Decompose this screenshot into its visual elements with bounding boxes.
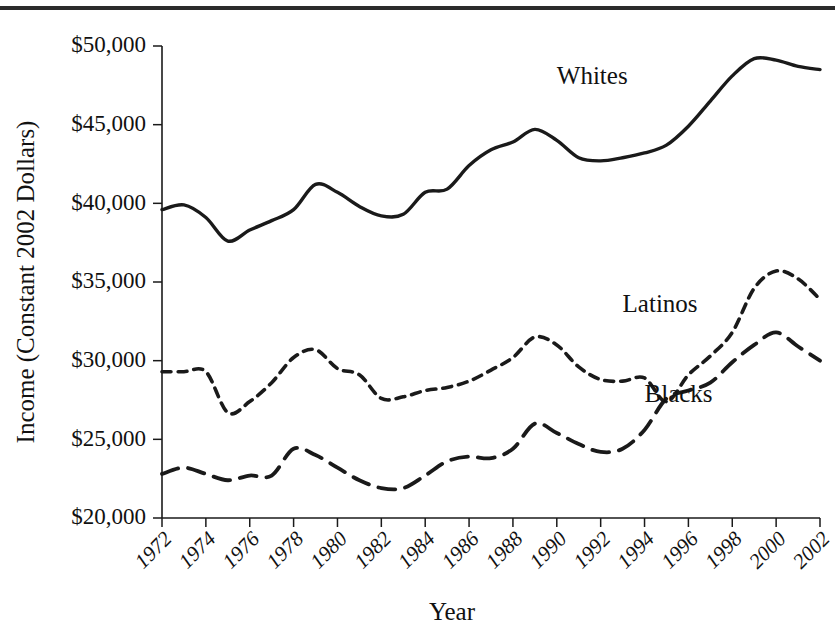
x-axis-title: Year [429,598,476,625]
x-axis: 1972197419761978198019821984198619881990… [130,518,835,573]
y-tick-label: $45,000 [71,111,146,136]
x-tick-label: 1996 [656,526,703,573]
x-tick-label: 1984 [393,526,440,573]
x-tick-label: 1976 [218,526,265,573]
y-tick-label: $50,000 [71,32,146,57]
x-tick-label: 1974 [174,526,221,573]
series-line-whites [162,58,820,242]
y-tick-label: $30,000 [71,347,146,372]
y-tick-label: $35,000 [71,268,146,293]
series-label-blacks: Blacks [645,380,713,407]
series-inline-labels: WhitesLatinosBlacks [557,62,713,407]
y-axis-title: Income (Constant 2002 Dollars) [12,121,40,444]
series-label-latinos: Latinos [623,290,698,317]
x-tick-label: 1992 [569,526,616,573]
x-tick-label: 1986 [437,526,484,573]
x-tick-label: 1982 [349,526,396,573]
x-tick-label: 1990 [525,526,572,573]
x-tick-label: 1980 [305,526,352,573]
x-tick-label: 1988 [481,526,528,573]
x-tick-label: 1978 [261,526,308,573]
series-lines [162,58,820,490]
y-tick-label: $40,000 [71,190,146,215]
y-tick-label: $20,000 [71,504,146,529]
x-tick-label: 1998 [700,526,747,573]
series-line-blacks [162,332,820,489]
y-tick-label: $25,000 [71,426,146,451]
series-line-latinos [162,271,820,414]
x-tick-label: 1972 [130,526,177,573]
x-tick-label: 2002 [788,526,835,573]
series-label-whites: Whites [557,62,628,89]
chart-canvas: $50,000$45,000$40,000$35,000$30,000$25,0… [0,0,835,635]
y-axis: $50,000$45,000$40,000$35,000$30,000$25,0… [71,32,162,529]
x-tick-label: 2000 [744,526,791,573]
x-tick-label: 1994 [612,526,659,573]
income-by-race-line-chart: $50,000$45,000$40,000$35,000$30,000$25,0… [0,0,835,635]
